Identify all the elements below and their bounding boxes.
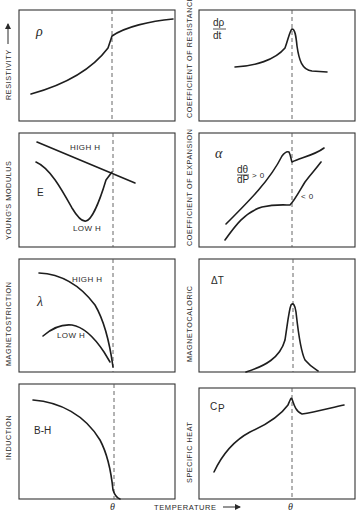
physical-properties-diagram: ρ RESISTIVITY dρ dt COEFFICIENT OF RESIS… — [0, 0, 362, 515]
ylabel-magnetostriction: MAGNETOSTRICTION — [4, 281, 13, 366]
panel-magnetocaloric: ΔT MAGNETOCALORIC — [185, 259, 355, 372]
drho-symbol: dρ — [213, 17, 225, 28]
ylabel-youngs-modulus: YOUNG'S MODULUS — [4, 161, 13, 240]
panel-induction: B-H INDUCTION θ — [4, 384, 175, 512]
lambda-symbol: λ — [36, 294, 43, 309]
magnetocaloric-curve — [246, 304, 318, 372]
high-h-label: HIGH H — [72, 275, 102, 284]
panel-coefficient-of-expansion: α dθ dP > 0 < 0 COEFFICIENT OF EXPANSION — [185, 128, 355, 247]
dP-symbol: dP — [237, 174, 250, 185]
high-h-curve — [39, 273, 113, 367]
lt0-label: < 0 — [301, 192, 314, 201]
dt-symbol: dt — [213, 30, 222, 41]
panel-resistivity: ρ RESISTIVITY — [4, 10, 175, 121]
ylabel-specific-heat: SPECIFIC HEAT — [185, 421, 194, 483]
panel-youngs-modulus: HIGH H LOW H E YOUNG'S MODULUS — [4, 133, 175, 247]
panel-coefficient-of-resistance: dρ dt COEFFICIENT OF RESISTANCE — [185, 0, 355, 121]
P-subscript: P — [218, 403, 225, 414]
low-h-label: LOW H — [57, 331, 85, 340]
xlabel-temperature: TEMPERATURE — [154, 503, 217, 512]
ylabel-magnetocaloric: MAGNETOCALORIC — [185, 285, 194, 362]
rho-symbol: ρ — [35, 24, 43, 39]
theta-label: θ — [288, 501, 293, 512]
theta-label: θ — [110, 501, 115, 512]
ylabel-coef-expansion: COEFFICIENT OF EXPANSION — [185, 128, 194, 246]
gt0-label: > 0 — [252, 171, 265, 180]
panel-magnetostriction: HIGH H LOW H λ MAGNETOSTRICTION — [4, 259, 175, 372]
ylabel-resistivity: RESISTIVITY — [4, 49, 13, 100]
low-h-curve — [36, 162, 112, 221]
alpha-symbol: α — [215, 146, 223, 161]
C-symbol: C — [210, 401, 217, 412]
alpha-positive-curve — [226, 148, 324, 224]
bh-curve — [33, 400, 120, 499]
BH-symbol: B-H — [34, 425, 51, 436]
coef-resistance-curve — [235, 29, 327, 72]
deltaT-symbol: ΔT — [211, 275, 224, 286]
panel-specific-heat: C P SPECIFIC HEAT θ — [185, 388, 355, 512]
low-h-label: LOW H — [73, 224, 101, 233]
resistivity-curve — [31, 19, 173, 94]
E-symbol: E — [37, 187, 44, 198]
specific-heat-curve — [214, 398, 344, 472]
ylabel-coef-resistance: COEFFICIENT OF RESISTANCE — [185, 0, 194, 118]
high-h-label: HIGH H — [70, 143, 100, 152]
ylabel-induction: INDUCTION — [4, 415, 13, 460]
